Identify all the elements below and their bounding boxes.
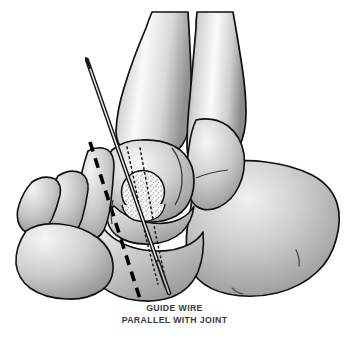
anatomy-illustration — [0, 0, 349, 344]
figure-root: GUIDE WIRE PARALLEL WITH JOINT — [0, 0, 349, 344]
bone-tibia — [116, 12, 191, 160]
